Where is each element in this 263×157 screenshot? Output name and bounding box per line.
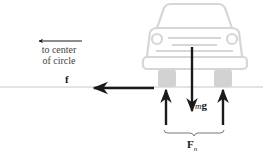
car-icon (143, 4, 247, 69)
normal-force-label: Fn (187, 138, 197, 153)
direction-label-line1: to center (33, 44, 85, 55)
right-tire (214, 70, 232, 87)
friction-label: f (65, 73, 69, 85)
direction-label-line2: of circle (33, 55, 85, 66)
weight-label: mg (195, 99, 207, 111)
normal-force-label-subscript: n (194, 145, 198, 153)
free-body-diagram (0, 0, 263, 157)
normal-force-label-vector: F (187, 138, 194, 150)
normal-force-brace (164, 130, 224, 136)
left-tire (158, 70, 176, 87)
direction-label: to center of circle (33, 44, 85, 66)
weight-label-gravity: g (202, 99, 208, 111)
